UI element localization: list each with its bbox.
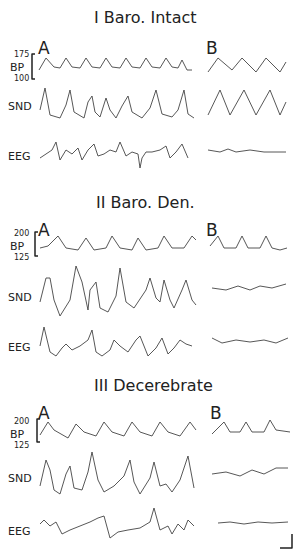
s2-bp-b [210, 236, 287, 250]
bp-scale-bracket-2 [35, 232, 38, 256]
bp-scale-bracket-3 [37, 419, 40, 442]
s3-snd-a [40, 452, 194, 494]
s2-snd-a [40, 266, 196, 316]
s1-eeg-b [208, 149, 286, 152]
s3-snd-b [212, 468, 288, 476]
s1-bp-a [39, 58, 192, 70]
s3-bp-b [212, 420, 290, 434]
s2-eeg-a [40, 327, 192, 356]
s2-eeg-b [212, 338, 288, 343]
s3-eeg-a [40, 508, 194, 538]
s1-snd-b [208, 90, 286, 115]
s2-bp-a [40, 236, 196, 250]
traces [0, 0, 301, 553]
s1-eeg-a [40, 142, 188, 168]
s3-eeg-b [218, 522, 288, 524]
s1-snd-a [40, 88, 194, 118]
bp-scale-bracket-1 [32, 54, 35, 79]
scale-bar [280, 534, 292, 548]
s1-bp-b [208, 58, 286, 72]
s2-snd-b [212, 284, 286, 290]
s3-bp-a [40, 422, 196, 438]
